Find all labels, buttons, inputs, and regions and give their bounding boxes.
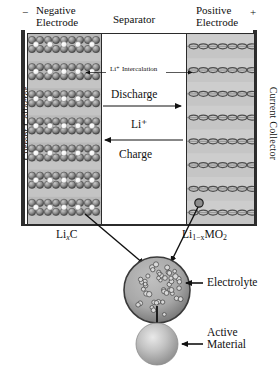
cathode-formula-pre: Li [182, 228, 192, 240]
annotation-arrows-layer [0, 0, 279, 372]
anode-formula-label: LixC [56, 228, 77, 242]
active-material-label-line1: Active [207, 326, 246, 338]
active-material-sphere [136, 323, 178, 365]
cathode-formula-sub: 1−x [192, 233, 204, 242]
discharge-label: Discharge [111, 88, 157, 100]
electrolyte-label: Electrolyte [207, 276, 257, 288]
cathode-formula-post: MO [204, 228, 223, 240]
anode-formula-pre: Li [56, 228, 66, 240]
anode-callout-line [85, 214, 144, 264]
li-intercalation-label: Li⁺ Intercalation [110, 66, 157, 74]
anode-formula-post: C [70, 228, 78, 240]
battery-schematic-figure: − + Negative Electrode Separator Positiv… [0, 0, 279, 372]
active-material-label-line2: Material [207, 338, 246, 350]
cathode-formula-sub2: 2 [223, 233, 227, 242]
charge-label: Charge [119, 148, 152, 160]
li-ion-label: Li⁺ [131, 118, 147, 130]
active-material-label: Active Material [207, 326, 246, 351]
cathode-formula-label: Li1−xMO2 [182, 228, 227, 242]
cathode-callout-origin-marker [195, 199, 203, 207]
